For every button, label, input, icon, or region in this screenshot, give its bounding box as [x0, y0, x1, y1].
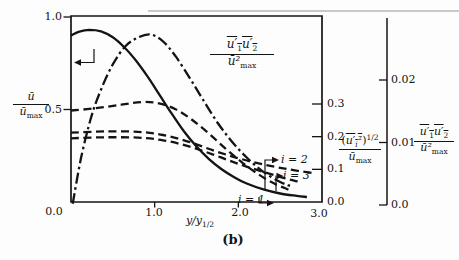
tick-label-origin: 0.0: [38, 205, 70, 218]
inner-den-sub: max: [356, 155, 372, 164]
curve-turbulence-intensity-i-1: [71, 102, 289, 190]
outer-num-u1: u′: [420, 125, 430, 138]
leader-left-axis-arrowhead: [74, 59, 81, 65]
tick-label-left-1.0: 1.0: [30, 10, 62, 23]
tick-label-x-1.0: 1.0: [138, 206, 170, 219]
series-label-i2: i = 2: [281, 153, 308, 166]
x-axis-label: y/y1/2: [176, 214, 224, 231]
curve-label-u2-sub: 2: [252, 44, 257, 53]
x-axis-label-base: y/y: [186, 214, 202, 227]
inner-right-axis-label: (u′i²)1/2 ūmax: [339, 134, 381, 165]
curve-label-shear-stress: u′1u′2 ū²max: [210, 38, 274, 70]
outer-den-sub: max: [432, 147, 448, 156]
curve-label-u1: u′: [227, 37, 237, 51]
leader-i3: [276, 176, 277, 191]
curve-label-den-sub: max: [240, 61, 256, 70]
tick-label-x-3.0: 3.0: [303, 207, 335, 220]
inner-num-exp: 1/2: [366, 133, 378, 142]
series-label-i3: i = 3: [283, 169, 310, 182]
x-axis-label-sub: 1/2: [202, 220, 214, 229]
outer-num-u2: u′: [434, 125, 444, 138]
figure-plane-jet-profiles: 1.0 0.5 0.0 ū ūmax 1.0 2.0 3.0 y/y1/2 (b…: [0, 0, 459, 260]
left-axis-den-sub: max: [27, 110, 43, 119]
left-axis-num: ū: [27, 90, 34, 103]
series-label-i1: i = 1: [238, 193, 265, 206]
tick-label-inner-0.0: 0.0: [327, 195, 345, 208]
outer-right-axis-label: u′1u′2 ū²max: [414, 126, 454, 156]
leader-arrows: [74, 49, 284, 206]
inner-den: ū: [349, 150, 356, 163]
curve-turbulence-intensity-i-2: [71, 131, 314, 173]
inner-num-base: u′: [346, 134, 356, 147]
leader-left-axis: [81, 49, 94, 63]
left-axis-label: ū ūmax: [13, 91, 49, 120]
tick-label-x-2.0: 2.0: [224, 206, 256, 219]
curve-label-den: ū²: [228, 54, 241, 68]
leader-i1-arrowhead: [267, 200, 274, 206]
outer-den: ū²: [420, 141, 432, 154]
leader-i2-arrowhead: [272, 157, 279, 163]
left-axis-den: ū: [20, 105, 27, 118]
figure-caption: (b): [208, 233, 258, 246]
curve-label-u2: u′: [242, 37, 252, 51]
tick-label-outer-0.02: 0.02: [391, 73, 416, 86]
tick-label-outer-0.0: 0.0: [391, 198, 409, 211]
outer-num-u2-sub: 2: [444, 131, 449, 140]
tick-label-outer-0.01: 0.01: [391, 136, 416, 149]
tick-label-inner-0.3: 0.3: [327, 97, 345, 110]
